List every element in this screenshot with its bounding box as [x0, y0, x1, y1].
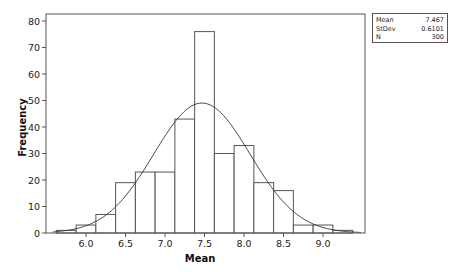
x-tick-label: 7.0	[157, 238, 172, 249]
histogram-bars	[56, 32, 352, 233]
histogram-bar	[96, 214, 116, 233]
y-tick-label: 40	[28, 122, 40, 133]
histogram-bar	[155, 172, 175, 233]
stats-value: 0.6101	[421, 25, 444, 34]
x-tick-label: 6.5	[118, 238, 133, 249]
stats-label: Mean	[376, 16, 394, 25]
x-tick-label: 8.0	[236, 238, 251, 249]
stats-value: 7.467	[425, 16, 444, 25]
histogram-bar	[116, 183, 136, 233]
x-axis-label: Mean	[180, 253, 220, 264]
histogram-bar	[234, 146, 254, 233]
stats-label: N	[376, 33, 381, 42]
histogram-bar	[135, 172, 155, 233]
y-tick-label: 10	[28, 201, 40, 212]
y-tick-label: 80	[28, 16, 40, 27]
y-tick-label: 20	[28, 175, 40, 186]
x-axis: 6.06.57.07.58.08.59.0	[78, 233, 330, 249]
y-tick-label: 60	[28, 69, 40, 80]
y-tick-label: 50	[28, 95, 40, 106]
histogram-bar	[274, 191, 294, 233]
x-tick-label: 7.5	[197, 238, 212, 249]
histogram-bar	[214, 154, 234, 234]
y-tick-label: 0	[34, 228, 40, 239]
stats-row-stdev: StDev 0.6101	[376, 25, 444, 34]
stats-label: StDev	[376, 25, 396, 34]
stats-legend-box: Mean 7.467 StDev 0.6101 N 300	[372, 13, 448, 43]
y-axis-label: Frequency	[17, 98, 28, 158]
histogram-bar	[195, 32, 215, 233]
histogram-bar	[254, 183, 274, 233]
histogram-bar	[175, 119, 195, 233]
x-tick-label: 6.0	[78, 238, 93, 249]
y-axis: 01020304050607080	[28, 16, 46, 239]
stats-row-n: N 300	[376, 33, 444, 42]
histogram-bar	[293, 225, 313, 233]
y-tick-label: 70	[28, 42, 40, 53]
stats-row-mean: Mean 7.467	[376, 16, 444, 25]
x-tick-label: 9.0	[315, 238, 330, 249]
x-tick-label: 8.5	[276, 238, 291, 249]
y-tick-label: 30	[28, 148, 40, 159]
stats-value: 300	[432, 33, 444, 42]
